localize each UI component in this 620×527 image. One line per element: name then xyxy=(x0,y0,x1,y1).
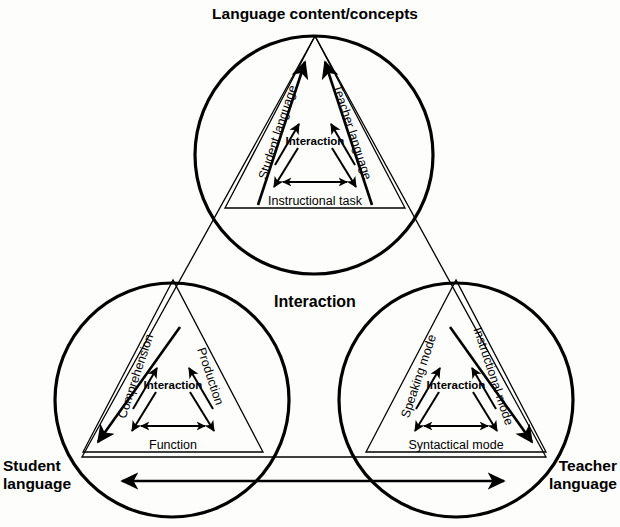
main-triangle-outline xyxy=(82,36,546,457)
corner-label-language-content: Language content/concepts xyxy=(212,5,418,22)
diagram-canvas: Interaction Student language Teacher lan… xyxy=(0,0,620,527)
main-triangle xyxy=(82,36,546,457)
corner-label-teacher-line1: Teacher xyxy=(559,457,617,474)
node-br-left-label: Speaking mode xyxy=(398,333,439,420)
node-top-base-label: Instructional task xyxy=(268,194,363,208)
major-flow-arrows xyxy=(98,62,532,481)
node-top: Interaction Student language Teacher lan… xyxy=(225,36,405,208)
interaction-triangle-diagram: Interaction Student language Teacher lan… xyxy=(0,0,620,527)
node-bl-right-label: Production xyxy=(194,346,226,407)
corner-label-student-line2: language xyxy=(3,475,71,492)
circle-language-content xyxy=(195,36,433,274)
node-br-interaction-label: Interaction xyxy=(427,379,486,391)
corner-label-student-line1: Student xyxy=(3,457,61,474)
corner-label-teacher-line2: language xyxy=(549,475,617,492)
center-interaction-label: Interaction xyxy=(274,293,356,310)
node-bl-left-label: Comprehension xyxy=(115,332,156,420)
node-top-interaction-label: Interaction xyxy=(286,135,345,147)
node-bl-base-label: Function xyxy=(149,438,197,452)
node-br-base-label: Syntactical mode xyxy=(408,438,503,452)
node-bl-interaction-label: Interaction xyxy=(144,379,203,391)
node-bottom-right: Interaction Speaking mode Instructional … xyxy=(366,280,546,452)
